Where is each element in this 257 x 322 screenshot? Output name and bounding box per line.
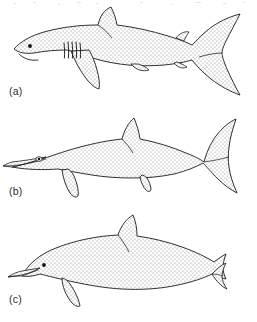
ichthyosaur-eye <box>36 157 42 162</box>
shark-mouth <box>19 54 38 60</box>
panel-label-b: (b) <box>9 186 22 197</box>
dolphin-eye <box>42 263 46 267</box>
figure-root: (a) <box>0 0 257 322</box>
dolphin-body <box>22 215 226 289</box>
panel-label-a: (a) <box>9 86 22 97</box>
shark-illustration <box>0 0 257 108</box>
panel-c-dolphin <box>0 208 257 322</box>
ichthyosaur-front-flipper <box>62 169 78 197</box>
shark-eye <box>28 44 32 48</box>
ichthyosaur-body <box>12 118 237 193</box>
ichthyosaur-illustration <box>0 105 257 210</box>
panel-a-shark <box>0 0 257 108</box>
shark-body <box>14 7 240 95</box>
dolphin-illustration <box>0 208 257 322</box>
panel-b-ichthyosaur <box>0 105 257 210</box>
panel-label-c: (c) <box>9 294 22 305</box>
